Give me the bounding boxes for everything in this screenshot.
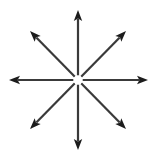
- diagram-svg: [0, 0, 157, 158]
- radial-arrow-diagram: [0, 0, 157, 158]
- center-hub-gap: [74, 76, 83, 85]
